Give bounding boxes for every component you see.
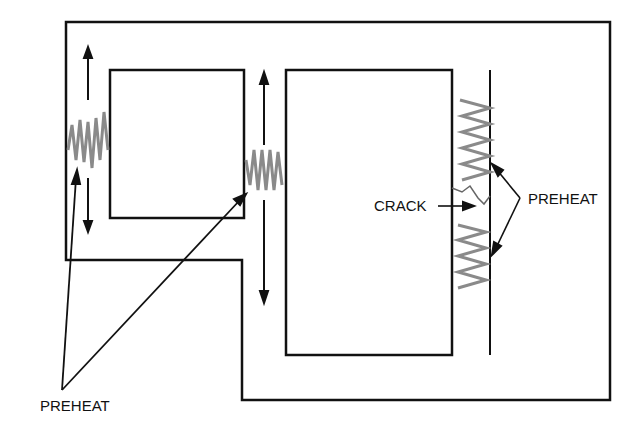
leader-preheat-right-2 — [496, 198, 520, 248]
outer-frame — [66, 22, 610, 400]
label-crack: CRACK — [374, 197, 427, 214]
right-window — [286, 70, 452, 355]
label-preheat-left: PREHEAT — [40, 397, 110, 414]
leader-preheat-left-1 — [62, 178, 76, 390]
diagram-canvas: PREHEAT CRACK PREHEAT — [0, 0, 638, 434]
left-window — [110, 70, 244, 218]
crack-arrowhead — [463, 202, 474, 210]
heat-zone-left — [68, 112, 108, 168]
arrowhead-mid-up — [260, 72, 268, 84]
arrowhead-mid-down — [260, 291, 268, 303]
heat-zone-middle — [246, 150, 282, 190]
leader-arrowhead-1 — [72, 170, 80, 184]
heat-zone-right-upper — [460, 100, 490, 180]
label-preheat-right: PREHEAT — [528, 190, 598, 207]
arrowhead-left-down — [84, 221, 92, 232]
arrowhead-left-up — [84, 47, 92, 58]
crack-line — [452, 186, 490, 204]
casting-diagram: PREHEAT CRACK PREHEAT — [0, 0, 638, 434]
leader-arrowhead-r2 — [492, 242, 501, 255]
heat-zone-right-lower — [458, 225, 486, 288]
